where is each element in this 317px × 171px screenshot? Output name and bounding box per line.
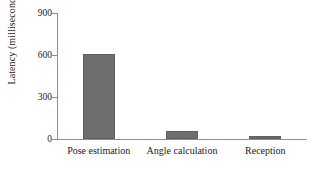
- y-axis-title: Latency (milliseconds): [6, 0, 17, 93]
- y-tick-label-900: 900: [24, 9, 52, 19]
- x-tick-label-pose-estimation: Pose estimation: [67, 145, 130, 156]
- bar-angle-calculation: [166, 131, 198, 139]
- y-axis-tick-labels: 900 600 300 0: [22, 0, 52, 171]
- bar-chart: Latency (milliseconds) 900 600 300 0 Pos…: [0, 0, 317, 171]
- y-tick-label-300: 300: [24, 93, 52, 103]
- bar-pose-estimation: [83, 54, 115, 139]
- y-tick-label-600: 600: [24, 51, 52, 61]
- x-axis-category-labels: Pose estimation Angle calculation Recept…: [57, 145, 307, 165]
- x-tick-label-angle-calculation: Angle calculation: [147, 145, 218, 156]
- bar-reception: [249, 136, 281, 139]
- plot-area: [57, 13, 307, 139]
- y-tick-label-0: 0: [24, 135, 52, 145]
- x-tick-label-reception: Reception: [245, 145, 286, 156]
- x-axis-line: [57, 139, 307, 140]
